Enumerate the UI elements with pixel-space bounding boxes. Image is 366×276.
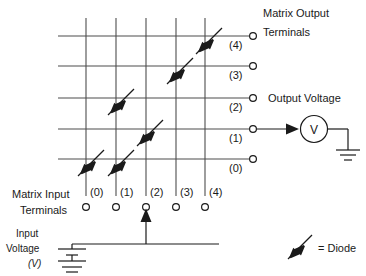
circuit-svg: (4) (3) (2) (1) (0) Matrix Output Termin…: [0, 0, 366, 276]
input-terminal-3[interactable]: [173, 204, 180, 211]
input-voltage-label-line2: Voltage: [6, 243, 40, 254]
input-terminal-1[interactable]: [113, 204, 120, 211]
input-terminal-label-2: (2): [150, 186, 163, 198]
input-terminal-0[interactable]: [83, 204, 90, 211]
matrix-input-terminals: [83, 204, 209, 211]
input-voltage-unit: (V): [28, 258, 41, 269]
output-terminal-label-3: (3): [229, 69, 242, 81]
output-terminal-label-0: (0): [229, 162, 242, 174]
output-terminal-label-4: (4): [229, 39, 242, 51]
diode-matrix-diagram: (4) (3) (2) (1) (0) Matrix Output Termin…: [0, 0, 366, 276]
legend-diode-text: = Diode: [318, 242, 356, 254]
diode-col4-row4: [196, 28, 222, 54]
input-voltage-source: Input Voltage (V): [6, 228, 219, 272]
voltmeter-label: V: [310, 123, 318, 137]
input-terminal-label-4: (4): [209, 186, 222, 198]
output-terminal-2[interactable]: [250, 95, 257, 102]
input-terminal-4[interactable]: [202, 204, 209, 211]
diode-col2-row1: [137, 120, 163, 146]
output-terminal-4[interactable]: [250, 33, 257, 40]
diode-col1-row0: [108, 150, 134, 176]
output-terminal-label-1: (1): [229, 132, 242, 144]
voltmeter-branch: V: [257, 116, 360, 161]
input-terminal-label-3: (3): [180, 186, 193, 198]
diode-legend: = Diode: [288, 235, 356, 259]
input-terminal-label-1: (1): [120, 186, 133, 198]
output-terminal-0[interactable]: [250, 156, 257, 163]
voltmeter-arrowhead: [286, 124, 299, 135]
input-voltage-label-line1: Input: [16, 228, 38, 239]
output-voltage-label: Output Voltage: [268, 92, 341, 104]
matrix-input-title-line2: Terminals: [20, 204, 68, 216]
diode-col0-row0: [78, 150, 104, 176]
matrix-output-title-line1: Matrix Output: [263, 7, 329, 19]
output-terminal-label-2: (2): [229, 101, 242, 113]
input-drive-arrow: [141, 209, 152, 245]
diode-col3-row3: [167, 58, 193, 84]
output-terminal-3[interactable]: [250, 63, 257, 70]
input-terminal-label-0: (0): [90, 186, 103, 198]
legend-diode-marker: [289, 245, 305, 258]
matrix-row-lines: [58, 36, 249, 159]
output-terminal-1[interactable]: [250, 126, 257, 133]
matrix-column-lines: [86, 18, 205, 196]
matrix-output-title-line2: Terminals: [263, 26, 311, 38]
input-drive-arrowhead: [141, 209, 152, 223]
diode-col1-row2: [108, 89, 134, 115]
matrix-input-title-line1: Matrix Input: [12, 188, 69, 200]
matrix-output-terminals: [250, 33, 257, 163]
